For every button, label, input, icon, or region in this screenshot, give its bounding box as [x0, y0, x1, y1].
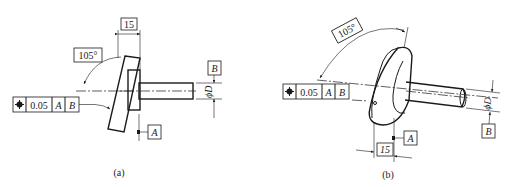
diameter-arrow-top [492, 80, 493, 92]
leader-line [79, 105, 110, 110]
datum-secondary: B [339, 87, 345, 98]
caption-b: (b) [382, 169, 394, 181]
datum-primary: A [54, 100, 62, 111]
datum-a-triangle [137, 130, 140, 134]
tolerance-value: 0.05 [30, 100, 48, 111]
panel-b: 105° 0.05 A B 15 [283, 18, 500, 181]
centerline-lower [352, 100, 368, 101]
width-dimension-text: 15 [380, 144, 390, 155]
width-dim-arrow-right [394, 156, 412, 158]
diameter-ext-top [466, 89, 500, 93]
datum-a-label: A [406, 133, 414, 144]
angle-dimension-text: 105° [79, 50, 98, 61]
panel-a: 15 105° 0.05 A B A [13, 18, 222, 179]
feature-control-frame-b: 0.05 A B [283, 84, 349, 99]
feature-control-frame-a: 0.05 A B [13, 97, 79, 112]
datum-a-label: A [150, 127, 158, 138]
datum-primary: A [324, 87, 332, 98]
tilted-disc [108, 56, 140, 132]
datum-b-label: B [211, 63, 217, 74]
technical-drawing: 15 105° 0.05 A B A [0, 0, 510, 187]
width-dim-arrow-left [356, 150, 374, 152]
caption-a: (a) [113, 167, 124, 179]
datum-b-label: B [485, 126, 491, 137]
angle-ext-line [404, 27, 408, 48]
datum-a-triangle [392, 136, 395, 140]
disc-face [393, 61, 405, 113]
diameter-label: ϕD [481, 96, 493, 110]
width-dimension-text: 15 [124, 19, 134, 30]
datum-secondary: B [69, 100, 75, 111]
diameter-label: ϕD [203, 85, 214, 98]
disc-hole [374, 102, 377, 105]
tolerance-value: 0.05 [300, 87, 318, 98]
angle-dimension-group: 105° [331, 18, 362, 44]
angle-arc [320, 29, 404, 78]
diameter-arrow-bottom [489, 112, 490, 124]
